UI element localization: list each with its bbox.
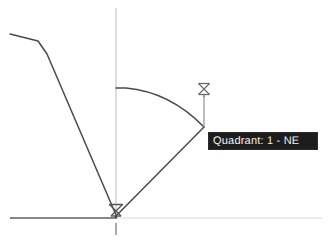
origin-node — [115, 216, 118, 219]
cad-drawing-area[interactable]: Quadrant: 1 - NE — [0, 0, 332, 243]
angle-ray[interactable] — [116, 127, 204, 216]
vertex-snap-marker[interactable] — [199, 84, 210, 98]
angle-arc-group[interactable] — [116, 88, 204, 127]
axis-group — [10, 8, 322, 235]
origin-node-group — [115, 216, 118, 219]
reference-polyline-group[interactable] — [10, 34, 116, 215]
angle-ray-group[interactable] — [116, 127, 204, 216]
angle-arc[interactable] — [116, 88, 204, 127]
vertex-snap-marker-bowtie — [199, 84, 210, 95]
drawing-canvas[interactable] — [0, 0, 332, 243]
reference-polyline[interactable] — [10, 34, 116, 215]
quadrant-tooltip: Quadrant: 1 - NE — [208, 132, 318, 150]
